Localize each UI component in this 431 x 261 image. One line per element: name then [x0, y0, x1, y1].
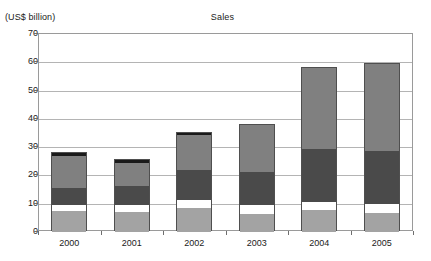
- x-tick-label: 2002: [184, 238, 204, 248]
- bar-segment[interactable]: [177, 135, 211, 170]
- bar-segment[interactable]: [115, 186, 149, 205]
- x-tick-label: 2005: [372, 238, 392, 248]
- bar-segment[interactable]: [177, 170, 211, 200]
- bar-segment[interactable]: [52, 156, 86, 189]
- bar-segment[interactable]: [302, 210, 336, 231]
- bar-stack[interactable]: [364, 63, 400, 231]
- x-tick-label: 2001: [122, 238, 142, 248]
- x-tick-mark: [163, 231, 164, 235]
- bar-segment[interactable]: [240, 125, 274, 172]
- chart-title: Sales: [0, 12, 431, 22]
- bar-segment[interactable]: [177, 200, 211, 209]
- bar-segment[interactable]: [240, 172, 274, 205]
- x-tick-label: 2000: [59, 238, 79, 248]
- bar-segment[interactable]: [240, 205, 274, 214]
- bar-segment[interactable]: [365, 64, 399, 151]
- bar-segment[interactable]: [365, 151, 399, 204]
- y-axis: 706050403020100: [0, 33, 38, 231]
- bar-segment[interactable]: [177, 208, 211, 231]
- bar-group[interactable]: [364, 33, 400, 231]
- bar-segment[interactable]: [302, 149, 336, 202]
- bar-segment[interactable]: [115, 163, 149, 186]
- bar-segment[interactable]: [302, 202, 336, 210]
- bar-group[interactable]: [176, 33, 212, 231]
- bar-segment[interactable]: [115, 212, 149, 232]
- bar-stack[interactable]: [114, 159, 150, 231]
- bar-segment[interactable]: [365, 204, 399, 213]
- bar-segment[interactable]: [240, 214, 274, 232]
- bar-segment[interactable]: [115, 205, 149, 212]
- bar-stack[interactable]: [301, 67, 337, 231]
- bar-stack[interactable]: [239, 124, 275, 231]
- x-tick-mark: [351, 231, 352, 235]
- bar-group[interactable]: [239, 33, 275, 231]
- x-tick-mark: [101, 231, 102, 235]
- x-axis: 200020012002200320042005: [38, 231, 413, 257]
- bar-group[interactable]: [114, 33, 150, 231]
- x-tick-label: 2003: [247, 238, 267, 248]
- bar-stack[interactable]: [176, 132, 212, 231]
- bar-segment[interactable]: [302, 68, 336, 149]
- bar-stack[interactable]: [51, 152, 87, 231]
- x-tick-mark: [413, 231, 414, 235]
- x-tick-mark: [38, 231, 39, 235]
- bar-group[interactable]: [301, 33, 337, 231]
- x-tick-label: 2004: [309, 238, 329, 248]
- sales-stacked-bar-chart: (US$ billion) Sales 706050403020100 2000…: [0, 0, 431, 261]
- bars-layer: [38, 33, 413, 231]
- bar-segment[interactable]: [52, 211, 86, 232]
- bar-group[interactable]: [51, 33, 87, 231]
- bar-segment[interactable]: [52, 188, 86, 205]
- x-tick-mark: [226, 231, 227, 235]
- bar-segment[interactable]: [365, 213, 399, 232]
- x-tick-mark: [288, 231, 289, 235]
